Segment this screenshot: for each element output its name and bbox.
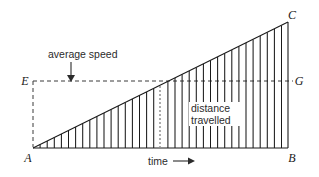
- distance-travelled-hatching: [40, 26, 281, 149]
- vertex-label-g: G: [295, 74, 304, 88]
- vertex-label-c: C: [288, 8, 297, 22]
- time-axis-arrow: [173, 158, 195, 165]
- distance-travelled-label-line1: distance: [191, 102, 230, 114]
- distance-travelled-label-line2: travelled: [191, 114, 231, 126]
- vertex-label-e: E: [20, 74, 29, 88]
- time-arrow-head: [188, 158, 195, 165]
- speed-time-diagram: A B C E G average speed distance travell…: [0, 0, 319, 177]
- time-axis-label: time: [148, 155, 168, 167]
- average-speed-label: average speed: [48, 48, 118, 60]
- vertex-label-b: B: [288, 151, 296, 165]
- average-speed-arrow: [67, 62, 75, 82]
- triangle-abc: [33, 22, 288, 148]
- speed-time-figure: A B C E G average speed distance travell…: [0, 0, 319, 177]
- average-speed-dashed-rectangle: [33, 81, 293, 147]
- hypotenuse-ac: [33, 22, 288, 148]
- vertex-label-a: A: [23, 151, 32, 165]
